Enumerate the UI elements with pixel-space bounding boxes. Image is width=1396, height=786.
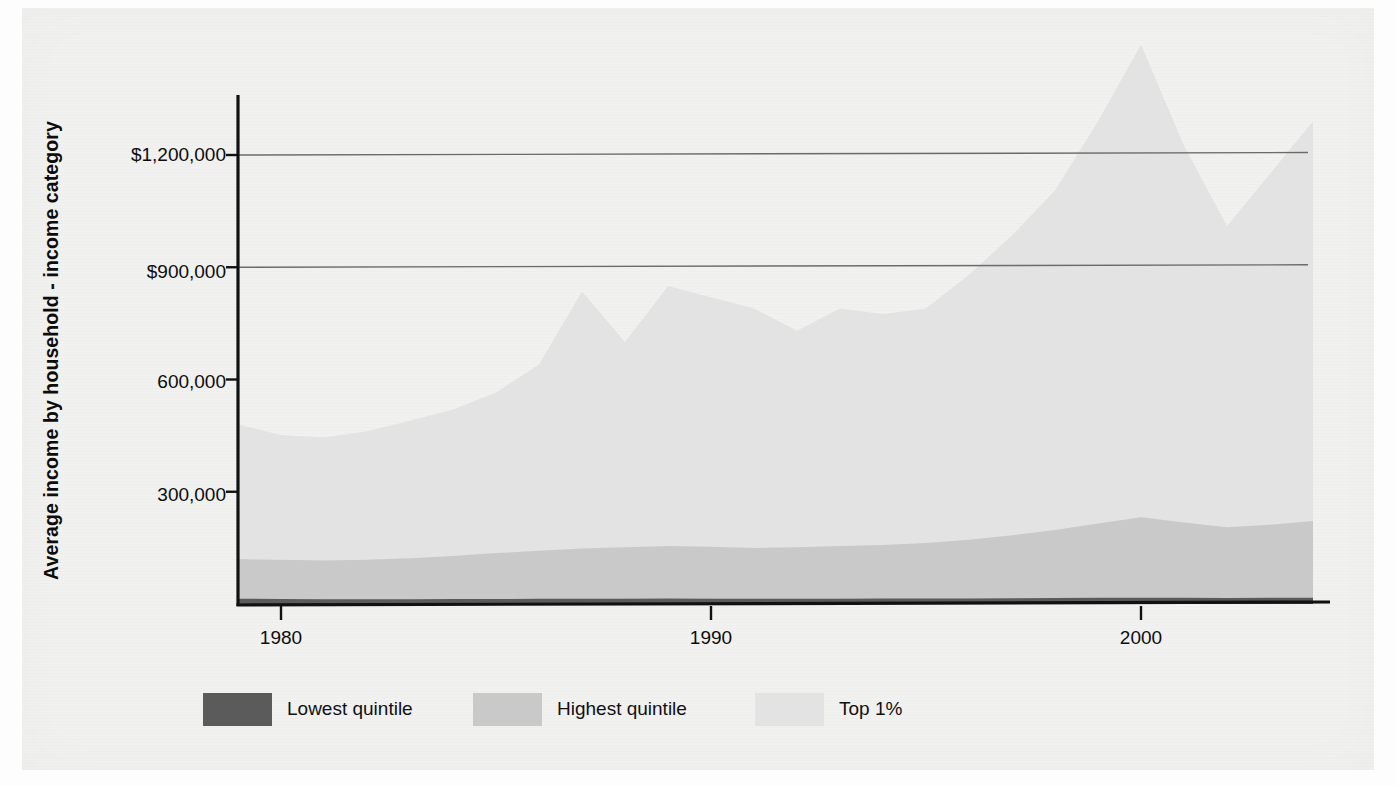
legend-label: Top 1% [839,698,902,720]
chart-legend: Lowest quintile Highest quintile Top 1% [0,692,1396,732]
legend-item-top-1-percent[interactable]: Top 1% [755,692,902,726]
legend-item-highest-quintile[interactable]: Highest quintile [473,692,687,726]
chart-page: Average income by household - income cat… [0,0,1396,786]
legend-label: Lowest quintile [287,698,413,720]
legend-label: Highest quintile [557,698,687,720]
legend-swatch-highest-quintile [473,693,542,726]
legend-item-lowest-quintile[interactable]: Lowest quintile [203,692,413,726]
legend-swatch-top-1-percent [755,693,824,726]
legend-swatch-lowest-quintile [203,693,272,726]
area-chart-plot [0,0,1396,786]
plot-layers [238,45,1313,604]
